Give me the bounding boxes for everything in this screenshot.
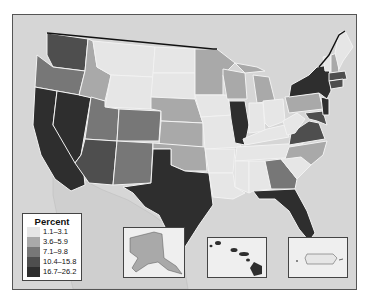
state-kansas[interactable] xyxy=(159,121,203,147)
legend-row: 1.1–3.1 xyxy=(27,227,77,237)
state-arkansas[interactable] xyxy=(205,149,235,173)
legend-label: 1.1–3.1 xyxy=(43,227,68,237)
legend-label: 16.7–26.2 xyxy=(43,267,76,277)
legend-label: 10.4–15.8 xyxy=(43,257,76,267)
state-colorado[interactable] xyxy=(117,109,161,141)
state-north-dakota[interactable] xyxy=(153,47,195,73)
puerto-rico-shape xyxy=(289,238,347,277)
legend-row: 10.4–15.8 xyxy=(27,257,77,267)
legend-label: 7.1–9.8 xyxy=(43,247,68,257)
legend-swatch xyxy=(27,267,40,277)
alaska-shape xyxy=(124,228,184,277)
legend-title: Percent xyxy=(27,216,77,227)
state-new-jersey[interactable] xyxy=(321,97,329,115)
legend-swatch xyxy=(27,227,40,237)
state-new-mexico[interactable] xyxy=(113,141,153,185)
legend-label: 3.6–5.9 xyxy=(43,237,68,247)
inset-puerto-rico xyxy=(288,237,348,278)
inset-alaska xyxy=(123,227,185,278)
map-legend: Percent 1.1–3.1 3.6–5.9 7.1–9.8 10.4–15.… xyxy=(22,213,82,281)
legend-swatch xyxy=(27,247,40,257)
legend-swatch xyxy=(27,257,40,267)
state-wyoming[interactable] xyxy=(105,75,153,109)
inset-hawaii xyxy=(207,237,267,278)
legend-swatch xyxy=(27,237,40,247)
legend-row: 16.7–26.2 xyxy=(27,267,77,277)
state-connecticut[interactable] xyxy=(329,79,343,89)
state-wisconsin[interactable] xyxy=(223,69,247,99)
legend-row: 3.6–5.9 xyxy=(27,237,77,247)
state-washington[interactable] xyxy=(47,33,88,71)
state-indiana[interactable] xyxy=(249,103,265,133)
hawaii-shape xyxy=(208,238,266,277)
legend-row: 7.1–9.8 xyxy=(27,247,77,257)
state-south-dakota[interactable] xyxy=(151,73,195,99)
state-mississippi[interactable] xyxy=(235,161,249,193)
